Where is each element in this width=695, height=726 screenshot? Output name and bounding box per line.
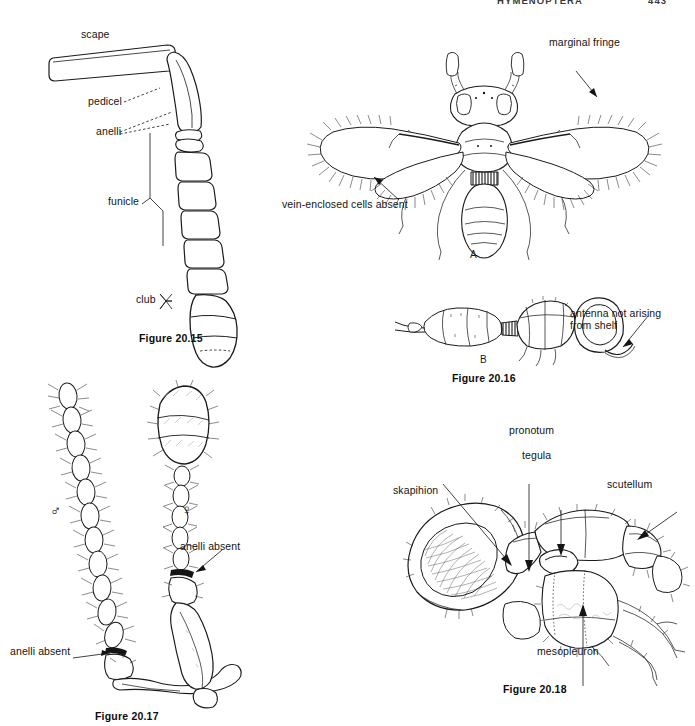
label-anelli-absent-male: anelli absent — [10, 645, 70, 657]
label-vein-enclosed-cells-absent: vein-enclosed cells absent — [282, 198, 408, 210]
label-scape: scape — [81, 28, 110, 40]
caption-figure-20-15: Figure 20.15 — [139, 332, 203, 344]
page-number: 443 — [648, 0, 667, 6]
label-pedicel: pedicel — [88, 95, 122, 107]
label-mesopleuron: mesopleuron — [537, 645, 599, 657]
caption-figure-20-17: Figure 20.17 — [95, 710, 159, 722]
caption-figure-20-18: Figure 20.18 — [503, 683, 567, 695]
panel-letter-a: A — [470, 249, 477, 260]
label-club: club — [136, 293, 156, 305]
textbook-page: HYMENOPTERA 443 sca — [0, 0, 695, 726]
label-anelli: anelli — [96, 125, 121, 137]
label-tegula: tegula — [522, 449, 551, 461]
label-anelli-absent-female: anelli absent — [180, 540, 240, 552]
label-skapihion: skapihion — [393, 484, 438, 496]
figure-20-15-illustration — [20, 20, 320, 350]
label-pronotum: pronotum — [509, 424, 554, 436]
panel-letter-b: B — [480, 354, 487, 365]
male-symbol: ♂ — [50, 503, 61, 518]
label-funicle: funicle — [108, 195, 139, 207]
label-marginal-fringe: marginal fringe — [549, 36, 620, 48]
female-symbol: ♀ — [181, 502, 192, 517]
caption-figure-20-16: Figure 20.16 — [452, 372, 516, 384]
figure-20-16-panel-a-illustration — [295, 30, 695, 260]
label-antenna-not-arising-line1: antenna not arising — [570, 307, 661, 319]
label-scutellum: scutellum — [607, 478, 652, 490]
running-head: HYMENOPTERA — [497, 0, 583, 6]
label-antenna-not-arising-line2: from shelf — [570, 319, 617, 331]
